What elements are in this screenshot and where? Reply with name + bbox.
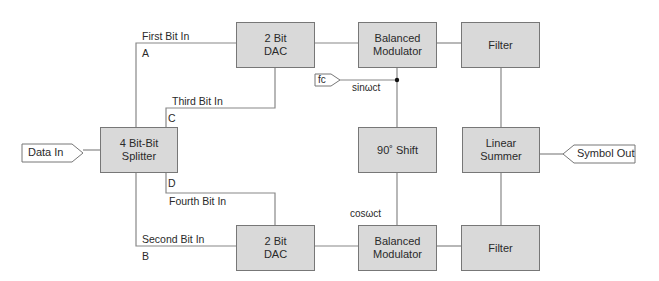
carrier-fc-label: fc: [318, 74, 326, 85]
linear-summer-block: Linear Summer: [462, 127, 540, 173]
symbol-out-label: Symbol Out: [577, 147, 634, 159]
balanced-modulator-top-block: Balanced Modulator: [358, 22, 437, 68]
splitter-block: 4 Bit-Bit Splitter: [100, 127, 178, 173]
balanced-modulator-bottom-block: Balanced Modulator: [358, 225, 437, 271]
connection-wires: [0, 0, 659, 281]
cos-carrier-label: cosωct: [350, 208, 381, 219]
signal-a-label: A: [142, 47, 149, 59]
signal-b-label: B: [142, 250, 149, 262]
filter-bottom-block: Filter: [461, 225, 540, 271]
signal-c-label: C: [168, 112, 176, 124]
phase-shift-block: 90˚ Shift: [358, 127, 437, 173]
second-bit-label: Second Bit In: [142, 233, 204, 245]
junction-dot: [395, 78, 399, 82]
dac-bottom-block: 2 Bit DAC: [236, 225, 315, 271]
signal-d-label: D: [168, 177, 176, 189]
first-bit-label: First Bit In: [142, 30, 189, 42]
data-in-label: Data In: [28, 146, 63, 158]
filter-top-block: Filter: [461, 22, 540, 68]
dac-top-block: 2 Bit DAC: [236, 22, 315, 68]
fourth-bit-label: Fourth Bit In: [169, 195, 226, 207]
sin-carrier-label: sinωct: [352, 82, 380, 93]
third-bit-label: Third Bit In: [172, 95, 223, 107]
